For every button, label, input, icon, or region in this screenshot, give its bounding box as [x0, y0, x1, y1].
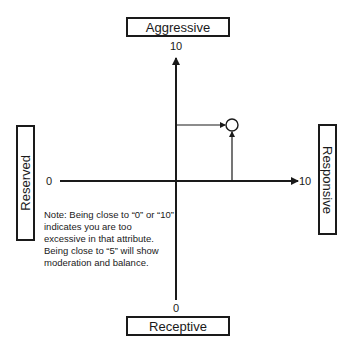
label-reserved: Reserved [16, 125, 35, 241]
label-responsive: Responsive [318, 124, 337, 235]
label-receptive: Receptive [126, 316, 230, 336]
label-aggressive-text: Aggressive [146, 20, 210, 35]
label-reserved-text: Reserved [18, 155, 33, 211]
data-point-marker [226, 119, 238, 131]
label-receptive-text: Receptive [149, 319, 207, 334]
label-aggressive: Aggressive [126, 17, 230, 37]
y-max-tick: 10 [170, 40, 182, 52]
label-responsive-text: Responsive [320, 146, 335, 214]
x-min-tick: 0 [46, 175, 52, 187]
y-min-tick: 0 [173, 302, 179, 314]
note-text: Note: Being close to “0” or “10” indicat… [44, 209, 174, 269]
x-max-tick: 10 [299, 175, 311, 187]
